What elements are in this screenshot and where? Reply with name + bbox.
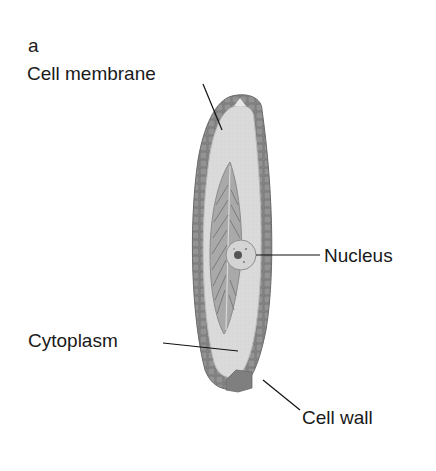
label-cytoplasm: Cytoplasm bbox=[28, 331, 118, 350]
nucleolus bbox=[234, 251, 242, 259]
leader-cell-wall bbox=[263, 380, 300, 410]
label-nucleus: Nucleus bbox=[324, 246, 393, 265]
label-cell-membrane: Cell membrane bbox=[27, 64, 156, 83]
panel-label: a bbox=[28, 36, 39, 55]
label-cell-wall: Cell wall bbox=[302, 408, 373, 427]
